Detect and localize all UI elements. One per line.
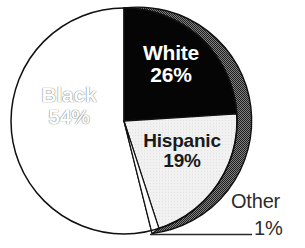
pie-slice-white[interactable]: [124, 8, 237, 121]
pie-slice-hispanic[interactable]: [124, 114, 237, 229]
slice-label-other-name: Other: [231, 190, 280, 213]
slice-label-other-value: 1%: [254, 217, 283, 240]
pie-chart: White 26% Black 54% Hispanic 19% Other 1…: [0, 0, 305, 248]
